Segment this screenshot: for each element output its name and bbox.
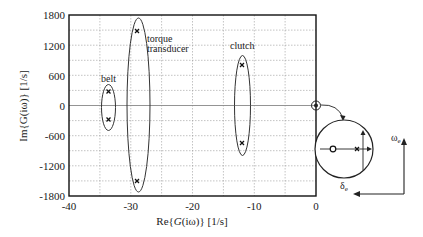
svg-text:1200: 1200	[43, 40, 66, 52]
belt-pole-lower-marker	[107, 118, 111, 122]
clutch-pole-lower-marker	[240, 141, 244, 145]
delta-label: δe	[340, 180, 348, 193]
svg-text:-600: -600	[45, 130, 66, 142]
svg-text:-10: -10	[247, 200, 262, 212]
omega-label: ωe	[391, 132, 401, 145]
belt-label: belt	[101, 73, 116, 84]
svg-text:1800: 1800	[43, 9, 66, 21]
x-tick-labels: -40 -30 -20 -10 0	[62, 200, 320, 212]
svg-text:0: 0	[313, 200, 319, 212]
zoom-arrow	[321, 105, 346, 121]
y-axis-label: Im{G(iω)} [1/s]	[17, 70, 30, 141]
clutch-pole-upper-marker	[240, 63, 244, 67]
pole-map-figure: 1800 1200 600 0 -600 -1200 -1800 -40 -30…	[0, 0, 423, 237]
torque-pole-upper-marker	[135, 29, 139, 33]
origin-inset	[315, 120, 373, 178]
svg-text:-1200: -1200	[39, 160, 65, 172]
svg-text:600: 600	[49, 70, 66, 82]
torque-label-line2: transducer	[147, 43, 189, 54]
belt-pole-group: belt	[101, 73, 116, 131]
y-tick-labels: 1800 1200 600 0 -600 -1200 -1800	[39, 9, 65, 202]
svg-text:-40: -40	[62, 200, 77, 212]
svg-text:-20: -20	[185, 200, 200, 212]
clutch-pole-group: clutch	[230, 40, 254, 156]
clutch-label: clutch	[230, 40, 254, 51]
x-axis-label: Re{G(iω)} [1/s]	[156, 215, 227, 228]
svg-text:0: 0	[60, 100, 66, 112]
inset-zero-marker	[330, 146, 336, 152]
svg-text:-30: -30	[123, 200, 138, 212]
